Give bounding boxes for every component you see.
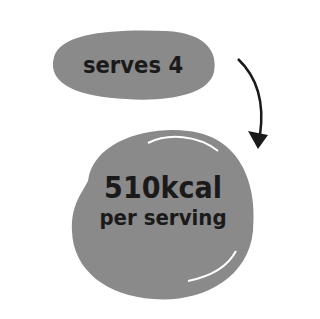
servings-badge: serves 4 <box>46 27 220 102</box>
calories-value: 510kcal <box>78 171 249 205</box>
calories-unit-label: per serving <box>78 205 249 231</box>
calories-badge: 510kcal per serving <box>68 121 258 306</box>
calories-text: 510kcal per serving <box>68 171 258 231</box>
servings-label: serves 4 <box>53 27 213 102</box>
